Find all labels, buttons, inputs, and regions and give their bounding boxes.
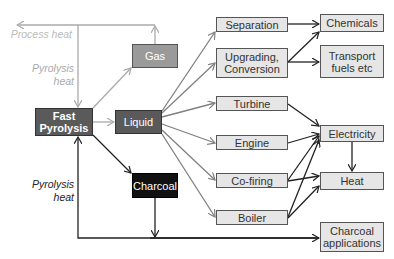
node-charcoal-applications: Charcoal applications: [320, 222, 384, 252]
turbine-to-electricity: [288, 104, 319, 126]
node-transport-fuels: Transport fuels etc: [320, 45, 384, 78]
node-gas: Gas: [132, 44, 178, 68]
pyrolysis-heat-label-bottom: Pyrolysis heat: [20, 178, 74, 204]
liquid-to-engine: [162, 124, 215, 143]
node-boiler: Boiler: [216, 210, 288, 225]
fast-pyrolysis-diagram: Process heat Pyrolysis heat Pyrolysis he…: [0, 0, 394, 259]
node-separation: Separation: [216, 17, 288, 32]
cofiring-to-electricity: [288, 136, 319, 180]
node-electricity: Electricity: [320, 125, 384, 142]
node-upgrading: Upgrading, Conversion: [216, 48, 288, 78]
node-chemicals: Chemicals: [320, 14, 384, 32]
pyrolysis-to-charcoal: [93, 135, 131, 173]
boiler-to-electricity: [288, 140, 319, 217]
process-heat-label: Process heat: [2, 28, 72, 41]
node-fast-pyrolysis: Fast Pyrolysis: [35, 108, 93, 136]
node-turbine: Turbine: [216, 96, 288, 111]
node-charcoal: Charcoal: [132, 173, 178, 198]
upgrading-to-chemicals: [288, 32, 319, 62]
pyrolysis-heat-label-top: Pyrolysis heat: [20, 62, 74, 88]
pyrolysis-to-gas-line: [93, 68, 131, 108]
node-cofiring: Co-firing: [216, 173, 288, 188]
node-heat: Heat: [320, 172, 384, 190]
node-engine: Engine: [216, 135, 288, 150]
boiler-to-heat: [288, 186, 319, 218]
node-liquid: Liquid: [115, 110, 162, 134]
